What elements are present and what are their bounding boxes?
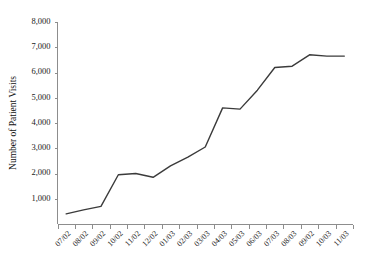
x-axis-tick-label: 05/03 bbox=[227, 229, 246, 248]
x-axis-tick-label: 12/02 bbox=[140, 229, 159, 248]
x-axis-tick-label: 07/02 bbox=[53, 229, 72, 248]
x-axis-tick-label: 08/02 bbox=[71, 229, 90, 248]
x-axis-tick-label: 10/02 bbox=[105, 229, 124, 248]
y-axis-tick-label: 2,000 bbox=[31, 167, 50, 177]
data-series-line bbox=[66, 55, 344, 214]
x-axis-tick-labels: 07/0208/0209/0210/0211/0212/0201/0302/03… bbox=[53, 229, 350, 248]
x-axis-tick-label: 08/03 bbox=[279, 229, 298, 248]
line-chart: 8,0007,0006,0005,0004,0003,0002,0001,000… bbox=[0, 0, 373, 269]
y-axis-tick-label: 1,000 bbox=[31, 193, 50, 203]
x-axis-tick-label: 03/03 bbox=[192, 229, 211, 248]
x-axis-tick-label: 11/02 bbox=[123, 229, 142, 248]
x-axis-tick-label: 10/03 bbox=[314, 229, 333, 248]
y-axis-title: Number of Patient Visits bbox=[8, 76, 18, 170]
y-axis-tick-label: 8,000 bbox=[31, 16, 50, 26]
x-axis-tick-label: 06/03 bbox=[245, 229, 264, 248]
x-axis-tick-label: 11/03 bbox=[332, 229, 351, 248]
y-axis-tick-label: 7,000 bbox=[31, 41, 50, 51]
y-axis-tick-label: 5,000 bbox=[31, 92, 50, 102]
y-axis-tick-label: 6,000 bbox=[31, 66, 50, 76]
y-axis-tick-labels: 8,0007,0006,0005,0004,0003,0002,0001,000 bbox=[31, 16, 50, 203]
x-axis-tick-label: 09/02 bbox=[297, 229, 316, 248]
x-axis-tick-label: 02/03 bbox=[175, 229, 194, 248]
x-axis-tick-label: 01/03 bbox=[158, 229, 177, 248]
x-axis-tick-label: 04/03 bbox=[210, 229, 229, 248]
x-axis-tick-label: 07/03 bbox=[262, 229, 281, 248]
chart-page: 8,0007,0006,0005,0004,0003,0002,0001,000… bbox=[0, 0, 373, 269]
x-axis-tick-label: 09/02 bbox=[88, 229, 107, 248]
y-axis-tick-label: 4,000 bbox=[31, 117, 50, 127]
x-axis-tick-marks bbox=[59, 225, 354, 229]
y-axis-tick-label: 3,000 bbox=[31, 142, 50, 152]
